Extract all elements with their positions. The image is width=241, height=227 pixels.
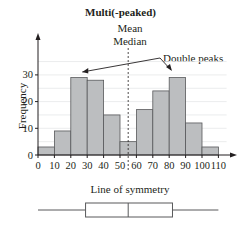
peak-arrow-left — [82, 58, 160, 72]
x-tick-label: 60 — [131, 160, 142, 171]
histogram-bar — [186, 123, 202, 155]
arrow-head-icon — [82, 68, 88, 74]
x-tick-label: 20 — [66, 160, 77, 171]
x-tick-label: 70 — [148, 160, 159, 171]
x-tick-label: 0 — [35, 160, 40, 171]
x-tick-label: 80 — [164, 160, 175, 171]
x-tick-label: 10 — [49, 160, 60, 171]
x-tick-label: 40 — [98, 160, 109, 171]
x-tick-label: 50 — [115, 160, 126, 171]
boxplot-box — [86, 203, 173, 217]
y-tick-label: 30 — [23, 69, 34, 80]
histogram-bar — [54, 131, 70, 155]
x-tick-label: 110 — [211, 160, 226, 171]
histogram-bar — [202, 147, 218, 155]
histogram-chart: 01020304050607080901001100102030 — [0, 0, 241, 227]
histogram-bar — [153, 91, 169, 155]
y-axis-arrow-icon — [36, 33, 41, 40]
x-tick-label: 30 — [82, 160, 93, 171]
y-tick-label: 0 — [28, 150, 33, 161]
y-tick-label: 10 — [23, 123, 34, 134]
histogram-bar — [169, 78, 185, 155]
histogram-bar — [136, 110, 152, 155]
x-tick-label: 100 — [194, 160, 210, 171]
histogram-bar — [87, 80, 103, 155]
histogram-bar — [38, 147, 54, 155]
histogram-bar — [104, 115, 120, 155]
x-axis-arrow-icon — [230, 153, 237, 158]
histogram-bar — [71, 78, 87, 155]
x-tick-label: 90 — [180, 160, 191, 171]
y-tick-label: 20 — [23, 96, 34, 107]
